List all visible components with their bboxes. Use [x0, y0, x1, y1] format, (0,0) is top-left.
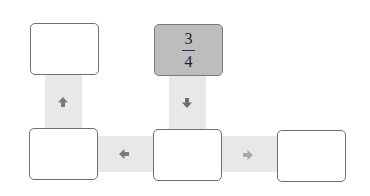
- box-bottom-left[interactable]: [29, 128, 98, 180]
- arrow-up-icon: [57, 96, 69, 108]
- arrow-left-icon: [118, 148, 130, 160]
- fraction-bar: [182, 50, 195, 51]
- box-bottom-center[interactable]: [153, 129, 222, 181]
- fraction: 3 4: [155, 25, 222, 75]
- box-top-center-start: 3 4: [154, 24, 223, 76]
- fraction-numerator: 3: [185, 30, 193, 48]
- arrow-down-icon: [181, 97, 193, 109]
- box-bottom-right[interactable]: [277, 130, 346, 182]
- box-top-left[interactable]: [30, 23, 99, 75]
- fraction-denominator: 4: [185, 53, 193, 71]
- arrow-right-icon: [242, 149, 254, 161]
